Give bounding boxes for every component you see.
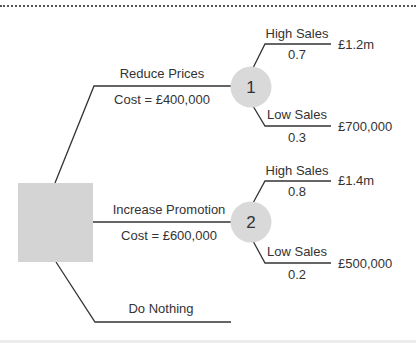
- outcome-probability: 0.7: [288, 47, 306, 62]
- outcome-value: £700,000: [338, 119, 392, 134]
- chance-node-2-outcomes: High Sales 0.8 £1.4m Low Sales 0.2 £500,…: [253, 163, 392, 282]
- outcome-probability: 0.3: [288, 130, 306, 145]
- chance-node-2: 2: [231, 202, 272, 243]
- chance-node-number: 2: [246, 213, 255, 232]
- outcome-value: £1.2m: [338, 37, 374, 52]
- chance-node-number: 1: [246, 78, 255, 97]
- option-label: Do Nothing: [128, 301, 193, 316]
- outcome-label: High Sales: [266, 26, 329, 41]
- option-label: Reduce Prices: [120, 66, 205, 81]
- option-cost: Cost = £400,000: [114, 92, 210, 107]
- outcome-label: Low Sales: [267, 244, 327, 259]
- option-label: Increase Promotion: [113, 202, 226, 217]
- outcome-label: High Sales: [266, 163, 329, 178]
- branch-do-nothing: Do Nothing: [56, 262, 231, 322]
- branch-reduce-prices: Reduce Prices Cost = £400,000: [55, 66, 231, 183]
- outcome-label: Low Sales: [267, 107, 327, 122]
- chance-node-1-outcomes: High Sales 0.7 £1.2m Low Sales 0.3 £700,…: [253, 26, 392, 145]
- branch-increase-promotion: Increase Promotion Cost = £600,000: [93, 202, 231, 243]
- decision-tree-diagram: Reduce Prices Cost = £400,000 Increase P…: [0, 0, 416, 343]
- chance-node-1: 1: [231, 67, 272, 108]
- outcome-value: £1.4m: [338, 173, 374, 188]
- outcome-probability: 0.2: [288, 267, 306, 282]
- decision-node-square: [18, 183, 93, 262]
- outcome-probability: 0.8: [288, 184, 306, 199]
- outcome-value: £500,000: [338, 256, 392, 271]
- option-cost: Cost = £600,000: [121, 228, 217, 243]
